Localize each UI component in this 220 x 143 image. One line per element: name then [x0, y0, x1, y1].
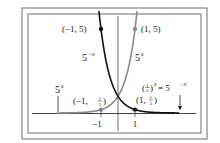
point-1-5 — [133, 27, 137, 31]
label-text: ) — [150, 83, 153, 93]
inner-frame — [28, 14, 201, 133]
exponential-graph-figure: −1 1 (−1, 5) (1, 5) (−1, 1 5 ) (1, 1 5 )… — [0, 0, 220, 143]
label-point-neg1-5: (−1, 5) — [62, 24, 87, 34]
fraction-numerator: 1 — [99, 96, 102, 101]
arrow-down-icon — [178, 106, 182, 111]
label-text: ( — [142, 83, 145, 93]
label-text: ) — [154, 95, 157, 105]
fraction-numerator: 1 — [150, 95, 153, 100]
outer-frame — [22, 8, 207, 139]
label-text: ) — [103, 96, 106, 106]
label-text: (−1, — [73, 96, 88, 106]
label-point-neg1-fifth: (−1, 1 5 ) — [73, 96, 106, 107]
tick-label-neg1: −1 — [92, 119, 102, 129]
label-point-1-5: (1, 5) — [141, 24, 161, 34]
fraction-denominator: 5 — [99, 102, 102, 107]
fraction-denominator: 5 — [146, 88, 149, 93]
label-text: = 5 — [158, 83, 170, 93]
label-exponent: −x — [180, 81, 187, 87]
label-exponent: x — [140, 51, 144, 57]
label-text: (1, — [136, 95, 146, 105]
label-point-1-fifth: (1, 1 5 ) — [136, 95, 157, 106]
annotation-left-tail-5-x: 5 x — [55, 83, 64, 112]
label-base: 5 — [82, 52, 87, 63]
label-curve-5-x: 5 x — [135, 51, 144, 63]
label-curve-5-neg-x: 5 −x — [82, 51, 95, 63]
label-base: 5 — [135, 52, 140, 63]
fraction-denominator: 5 — [150, 101, 153, 106]
label-base: 5 — [55, 84, 60, 95]
fraction-numerator: 1 — [146, 83, 149, 88]
point-neg1-5 — [99, 27, 103, 31]
label-exponent: x — [60, 83, 64, 89]
tick-label-1: 1 — [133, 119, 138, 129]
label-exponent: −x — [88, 51, 95, 57]
label-exponent: x — [153, 81, 157, 87]
